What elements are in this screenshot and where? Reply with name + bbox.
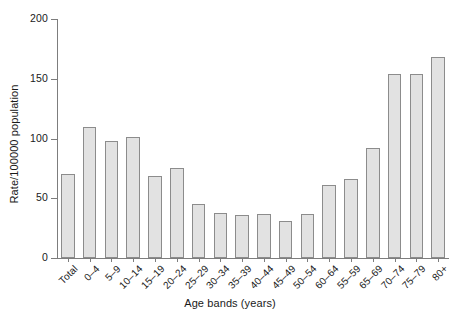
bar: [431, 57, 445, 258]
bar: [366, 148, 380, 258]
x-tick-mark: [395, 258, 396, 262]
x-tick-mark: [68, 258, 69, 262]
bar: [257, 214, 271, 258]
x-tick-mark: [438, 258, 439, 262]
x-tick-mark: [329, 258, 330, 262]
bar: [61, 174, 75, 258]
x-tick-mark: [416, 258, 417, 262]
bar: [388, 74, 402, 258]
x-axis-line: [57, 258, 449, 259]
x-tick-mark: [133, 258, 134, 262]
bar: [105, 141, 119, 258]
bar: [410, 74, 424, 258]
y-tick-label: 0: [0, 251, 48, 263]
bar: [148, 176, 162, 258]
bar: [344, 179, 358, 258]
bar: [235, 215, 249, 258]
x-tick-mark: [199, 258, 200, 262]
bar: [126, 137, 140, 258]
bar: [322, 185, 336, 258]
x-tick-mark: [90, 258, 91, 262]
y-tick-label: 50: [0, 191, 48, 203]
x-tick-mark: [155, 258, 156, 262]
y-tick-label: 150: [0, 72, 48, 84]
y-tick-label: 100: [0, 132, 48, 144]
x-tick-mark: [242, 258, 243, 262]
bar: [170, 168, 184, 258]
x-tick-mark: [264, 258, 265, 262]
y-axis-title-holder: Rate/100000 population: [0, 0, 1, 1]
x-tick-mark: [373, 258, 374, 262]
x-tick-mark: [111, 258, 112, 262]
bar: [279, 221, 293, 258]
y-tick-label: 200: [0, 12, 48, 24]
x-tick-mark: [351, 258, 352, 262]
bar: [192, 204, 206, 258]
x-tick-mark: [177, 258, 178, 262]
bar-chart: Rate/100000 population 050100150200 Tota…: [0, 0, 460, 320]
x-tick-mark: [307, 258, 308, 262]
x-axis-title: Age bands (years): [0, 297, 460, 309]
y-tick-mark: [51, 258, 57, 259]
bar: [83, 127, 97, 258]
x-tick-mark: [220, 258, 221, 262]
bar: [214, 213, 228, 258]
plot-area: [57, 19, 449, 258]
bar: [301, 214, 315, 258]
x-tick-mark: [286, 258, 287, 262]
